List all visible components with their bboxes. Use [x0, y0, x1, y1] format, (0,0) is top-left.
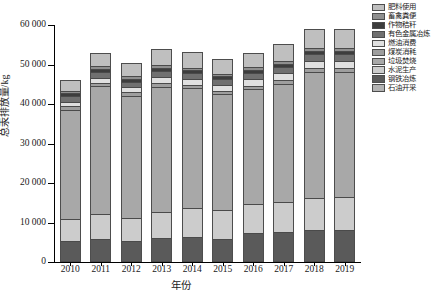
bar-segment[interactable]: [334, 197, 355, 230]
bar-segment[interactable]: [151, 238, 172, 261]
bar-segment[interactable]: [151, 49, 172, 66]
bar-segment[interactable]: [60, 110, 81, 219]
bar-segment[interactable]: [273, 61, 294, 64]
bar-2011[interactable]: [90, 25, 111, 262]
bar-segment[interactable]: [121, 63, 142, 76]
bar-segment[interactable]: [212, 91, 233, 95]
bar-segment[interactable]: [243, 204, 264, 233]
bar-2012[interactable]: [121, 25, 142, 262]
bar-2015[interactable]: [212, 25, 233, 262]
bar-segment[interactable]: [273, 84, 294, 202]
bar-segment[interactable]: [182, 85, 203, 89]
bar-2010[interactable]: [60, 25, 81, 262]
bar-segment[interactable]: [121, 76, 142, 78]
bar-segment[interactable]: [273, 202, 294, 232]
bar-segment[interactable]: [121, 87, 142, 92]
bar-segment[interactable]: [212, 76, 233, 79]
bar-segment[interactable]: [60, 106, 81, 109]
bar-2019[interactable]: [334, 25, 355, 262]
bar-segment[interactable]: [212, 239, 233, 261]
bar-segment[interactable]: [151, 77, 172, 83]
bar-2017[interactable]: [273, 25, 294, 262]
bar-segment[interactable]: [151, 65, 172, 68]
bar-segment[interactable]: [90, 53, 111, 66]
bar-segment[interactable]: [304, 48, 325, 51]
bar-segment[interactable]: [60, 96, 81, 102]
bar-segment[interactable]: [90, 78, 111, 83]
bar-segment[interactable]: [243, 233, 264, 261]
bar-segment[interactable]: [273, 67, 294, 73]
bar-segment[interactable]: [90, 239, 111, 261]
bar-segment[interactable]: [182, 73, 203, 79]
bar-segment[interactable]: [90, 72, 111, 78]
bar-segment[interactable]: [121, 82, 142, 88]
bar-segment[interactable]: [212, 85, 233, 91]
bar-segment[interactable]: [334, 72, 355, 198]
bar-segment[interactable]: [182, 52, 203, 67]
bar-segment[interactable]: [60, 219, 81, 241]
bar-segment[interactable]: [121, 79, 142, 82]
bar-segment[interactable]: [121, 218, 142, 241]
bar-segment[interactable]: [182, 237, 203, 261]
bar-segment[interactable]: [151, 68, 172, 71]
bar-segment[interactable]: [304, 54, 325, 61]
bar-segment[interactable]: [334, 29, 355, 48]
bar-segment[interactable]: [212, 74, 233, 77]
bar-2016[interactable]: [243, 25, 264, 262]
bar-segment[interactable]: [243, 67, 264, 70]
bar-segment[interactable]: [182, 208, 203, 237]
bar-segment[interactable]: [121, 92, 142, 95]
bar-segment[interactable]: [304, 29, 325, 48]
bar-segment[interactable]: [90, 86, 111, 214]
bar-segment[interactable]: [334, 51, 355, 54]
legend-item-9[interactable]: 石油开采: [372, 84, 446, 93]
bar-segment[interactable]: [304, 61, 325, 68]
bar-segment[interactable]: [304, 51, 325, 54]
bar-segment[interactable]: [121, 241, 142, 262]
bar-segment[interactable]: [334, 68, 355, 72]
bar-segment[interactable]: [243, 86, 264, 90]
bar-segment[interactable]: [334, 54, 355, 61]
bar-segment[interactable]: [273, 64, 294, 67]
bar-segment[interactable]: [212, 59, 233, 74]
bar-segment[interactable]: [273, 73, 294, 80]
bar-segment[interactable]: [243, 53, 264, 68]
bar-segment[interactable]: [90, 214, 111, 239]
bar-segment[interactable]: [60, 241, 81, 261]
bar-segment[interactable]: [60, 80, 81, 91]
bar-segment[interactable]: [273, 232, 294, 261]
bar-segment[interactable]: [151, 212, 172, 238]
bar-segment[interactable]: [182, 79, 203, 85]
bar-segment[interactable]: [243, 89, 264, 204]
bar-segment[interactable]: [273, 80, 294, 84]
bar-segment[interactable]: [304, 198, 325, 230]
bar-segment[interactable]: [182, 68, 203, 71]
bar-segment[interactable]: [121, 96, 142, 218]
bar-segment[interactable]: [60, 91, 81, 93]
bar-segment[interactable]: [334, 48, 355, 51]
bar-segment[interactable]: [90, 69, 111, 72]
bar-segment[interactable]: [212, 94, 233, 210]
bar-segment[interactable]: [151, 83, 172, 87]
bar-segment[interactable]: [304, 72, 325, 198]
bar-segment[interactable]: [60, 93, 81, 96]
bar-segment[interactable]: [151, 71, 172, 77]
bar-segment[interactable]: [60, 102, 81, 106]
bar-segment[interactable]: [90, 66, 111, 69]
bar-segment[interactable]: [334, 61, 355, 68]
bar-segment[interactable]: [212, 210, 233, 239]
bar-segment[interactable]: [304, 68, 325, 72]
bar-2013[interactable]: [151, 25, 172, 262]
bar-segment[interactable]: [151, 87, 172, 212]
bar-segment[interactable]: [304, 230, 325, 261]
bar-segment[interactable]: [273, 44, 294, 61]
bar-segment[interactable]: [182, 88, 203, 207]
bar-segment[interactable]: [334, 230, 355, 261]
bar-segment[interactable]: [243, 73, 264, 79]
bar-segment[interactable]: [90, 83, 111, 87]
bar-segment[interactable]: [212, 79, 233, 85]
bar-2014[interactable]: [182, 25, 203, 262]
bar-2018[interactable]: [304, 25, 325, 262]
bar-segment[interactable]: [182, 70, 203, 73]
bar-segment[interactable]: [243, 70, 264, 73]
